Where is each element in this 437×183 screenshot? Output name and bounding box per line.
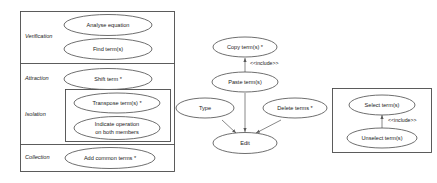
- use-case-unselect-terms[interactable]: Unselect term(s): [347, 128, 417, 148]
- use-case-label: Find term(s): [93, 46, 123, 52]
- use-case-label-line1: Indicate operation: [95, 121, 139, 127]
- use-case-indicate-operation[interactable]: Indicate operation on both members: [74, 117, 160, 140]
- use-case-label: Copy term(s) *: [227, 44, 264, 50]
- use-case-select-terms[interactable]: Select term(s): [349, 95, 415, 115]
- use-case-delete-terms[interactable]: Delete terms *: [263, 98, 327, 118]
- use-case-label: Delete terms *: [277, 105, 313, 111]
- association-delete-edit: [256, 120, 281, 133]
- use-case-label: Paste term(s): [228, 79, 262, 85]
- use-case-edit[interactable]: Edit: [213, 133, 277, 154]
- use-case-label: Type: [199, 105, 211, 111]
- association-type-edit: [222, 120, 236, 133]
- use-case-label: Shift term *: [94, 76, 122, 82]
- use-case-find-terms[interactable]: Find term(s): [64, 39, 152, 60]
- row-label-attraction: Attraction: [24, 75, 49, 81]
- use-case-copy-terms[interactable]: Copy term(s) *: [213, 37, 277, 57]
- use-case-label: Edit: [240, 140, 250, 146]
- use-case-shift-term[interactable]: Shift term *: [64, 69, 152, 90]
- row-label-isolation: Isolation: [25, 111, 46, 117]
- use-case-label: Unselect term(s): [361, 135, 402, 141]
- use-case-label-line2: on both members: [95, 129, 139, 135]
- use-case-paste-terms[interactable]: Paste term(s): [212, 72, 278, 92]
- use-case-diagram: Verification Attraction Isolation Collec…: [0, 0, 437, 183]
- use-case-add-common-terms[interactable]: Add common terms *: [65, 148, 155, 169]
- row-label-verification: Verification: [25, 33, 52, 39]
- use-case-type[interactable]: Type: [176, 98, 234, 118]
- use-case-label: Analyse equation: [87, 22, 130, 28]
- row-label-collection: Collection: [25, 154, 50, 160]
- use-case-label: Select term(s): [365, 102, 400, 108]
- stereotype-label-copy-paste: <<include>>: [250, 60, 279, 66]
- use-case-label: Transpose term(s) *: [92, 100, 142, 106]
- use-case-label: Add common terms *: [84, 155, 137, 161]
- stereotype-label-select-unselect: <<include>>: [388, 117, 417, 123]
- use-case-analyse-equation[interactable]: Analyse equation: [64, 15, 152, 36]
- use-case-transpose-terms[interactable]: Transpose term(s) *: [74, 93, 160, 113]
